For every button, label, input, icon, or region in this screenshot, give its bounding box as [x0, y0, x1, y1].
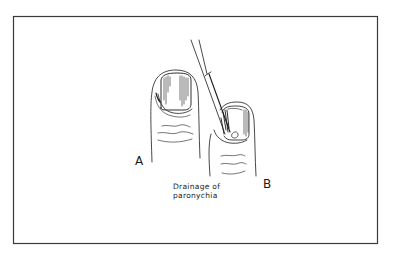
- illustration-drawing: [0, 0, 393, 258]
- figure-frame: [14, 17, 378, 244]
- finger-b-drawing: [209, 102, 256, 176]
- finger-b-label: B: [263, 178, 271, 190]
- finger-a-label: A: [135, 155, 143, 167]
- caption-line-1: Drainage of: [173, 182, 220, 191]
- figure-caption: Drainage of paronychia: [173, 182, 220, 200]
- finger-a-drawing: [151, 70, 200, 162]
- paronychia-drainage-figure: A B Drainage of paronychia: [0, 0, 393, 258]
- caption-line-2: paronychia: [173, 191, 220, 200]
